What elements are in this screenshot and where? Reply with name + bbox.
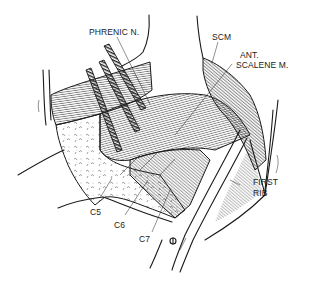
label-rib: RIB	[253, 188, 267, 198]
label-ant-line1: ANT.	[240, 50, 259, 60]
brachial-plexus-region	[130, 149, 210, 218]
neck-right-contour	[197, 16, 203, 58]
label-ant-scalene: SCALENE M.	[236, 60, 289, 70]
label-c6: C6	[114, 220, 125, 230]
label-scm: SCM	[212, 32, 231, 42]
skin-flap-left	[43, 70, 46, 125]
leader-scm	[212, 42, 218, 63]
label-c7: C7	[139, 234, 150, 244]
anatomical-illustration	[0, 0, 311, 283]
label-first: FIRST	[253, 177, 278, 187]
neck-left-contour	[122, 15, 149, 66]
label-c5: C5	[90, 207, 101, 217]
label-phrenic-nerve: PHRENIC N.	[89, 27, 139, 37]
